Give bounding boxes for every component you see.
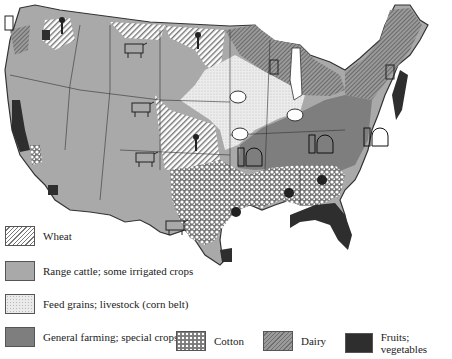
cotton-boll-icon xyxy=(284,188,294,198)
sheep-icon xyxy=(232,128,248,140)
milk-can-icon xyxy=(5,16,13,30)
legend-item-cotton: Cotton xyxy=(176,331,244,351)
legend-item-range: Range cattle; some irrigated crops xyxy=(5,261,193,281)
region-cotton-ca xyxy=(30,145,42,165)
region-fruits-tx xyxy=(220,248,232,262)
sheep-icon xyxy=(287,109,303,121)
legend-label: Dairy xyxy=(301,335,326,347)
region-cotton xyxy=(170,160,345,245)
legend-item-fruits: Fruits; vegetables xyxy=(345,331,452,355)
general-swatch xyxy=(5,327,35,347)
wheat-swatch xyxy=(5,226,35,246)
legend-label: Range cattle; some irrigated crops xyxy=(43,265,193,277)
region-fruits-az xyxy=(48,185,58,195)
legend-item-general: General farming; special crops xyxy=(5,327,178,347)
cotton-swatch xyxy=(176,331,206,351)
legend-item-wheat: Wheat xyxy=(5,226,72,246)
legend-item-feed: Feed grains; livestock (corn belt) xyxy=(5,294,188,314)
legend-label: Cotton xyxy=(214,335,244,347)
range-swatch xyxy=(5,261,35,281)
region-fruits-wa xyxy=(42,30,50,40)
cotton-boll-icon xyxy=(231,207,241,217)
legend-item-dairy: Dairy xyxy=(263,331,326,351)
legend-label: Wheat xyxy=(43,230,72,242)
sheep-icon xyxy=(230,91,246,103)
cotton-boll-icon xyxy=(317,175,327,185)
legend-label: General farming; special crops xyxy=(43,331,178,343)
fruits-swatch xyxy=(345,333,373,353)
dairy-swatch xyxy=(263,331,293,351)
feed-swatch xyxy=(5,294,35,314)
legend-label: Feed grains; livestock (corn belt) xyxy=(43,298,188,310)
legend-label: Fruits; vegetables xyxy=(381,331,452,355)
